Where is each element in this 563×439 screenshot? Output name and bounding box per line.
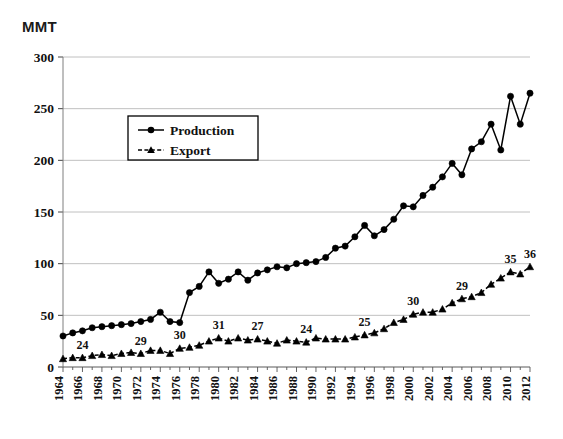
data-point-marker — [99, 324, 105, 330]
data-point-marker — [216, 280, 222, 286]
x-axis-tick-label: 1992 — [324, 376, 338, 401]
data-point-marker — [196, 283, 202, 289]
data-point-marker — [79, 328, 85, 334]
x-axis-tick-label: 1968 — [91, 376, 105, 401]
data-point-marker — [274, 264, 280, 270]
data-point-marker — [468, 293, 475, 300]
data-point-marker — [109, 323, 115, 329]
chart-legend: ProductionExport — [128, 116, 258, 160]
data-point-marker — [497, 275, 504, 282]
data-point-marker — [371, 233, 377, 239]
data-point-marker — [419, 309, 426, 316]
data-point-marker — [332, 245, 338, 251]
y-axis-tick-label: 0 — [47, 360, 54, 375]
gridlines-group — [63, 57, 530, 315]
x-axis-tick-label: 1984 — [247, 375, 261, 401]
data-label: 36 — [524, 247, 536, 261]
data-point-marker — [361, 331, 368, 338]
data-point-marker — [430, 184, 436, 190]
x-axis-tick-label: 1994 — [344, 375, 358, 401]
x-axis-tick-label: 1982 — [227, 376, 241, 401]
y-axis-tick-label: 50 — [41, 308, 55, 323]
data-point-marker — [118, 322, 124, 328]
data-point-marker — [293, 261, 299, 267]
data-point-marker — [147, 316, 153, 322]
data-point-marker — [186, 290, 192, 296]
data-point-marker — [400, 316, 407, 323]
x-axis-tick-label: 1980 — [208, 376, 222, 401]
data-point-marker — [60, 333, 66, 339]
data-label: 25 — [359, 315, 371, 329]
data-label: 27 — [252, 319, 264, 333]
data-point-marker — [342, 243, 348, 249]
y-axis-tick-label: 200 — [34, 153, 55, 168]
data-label: 24 — [300, 322, 312, 336]
data-point-marker — [206, 269, 212, 275]
data-point-marker — [420, 192, 426, 198]
data-point-marker — [469, 146, 475, 152]
x-axis-tick-label: 2008 — [480, 376, 494, 401]
data-point-marker — [527, 90, 533, 96]
data-point-marker — [323, 254, 329, 260]
data-point-marker — [313, 259, 319, 265]
y-axis-unit-label: MMT — [22, 18, 57, 35]
data-point-marker — [264, 267, 270, 273]
data-point-marker — [449, 160, 455, 166]
data-point-marker — [439, 306, 446, 313]
x-axis-tick-label: 1972 — [130, 376, 144, 401]
data-point-marker — [177, 319, 183, 325]
x-axis-tick-label: 1976 — [169, 376, 183, 401]
data-point-marker — [254, 336, 261, 343]
data-point-marker — [526, 263, 533, 270]
data-point-marker — [225, 276, 231, 282]
data-point-marker — [137, 350, 144, 357]
y-axis-ticks-group: 050100150200250300 — [34, 50, 63, 375]
chart-container: MMT 050100150200250300 19641966196819701… — [0, 0, 563, 439]
line-chart-plot: 050100150200250300 196419661968197019721… — [0, 0, 563, 439]
data-point-marker — [390, 319, 397, 326]
data-point-marker — [138, 318, 144, 324]
data-point-marker — [517, 270, 524, 277]
data-point-marker — [128, 321, 134, 327]
data-point-marker — [507, 93, 513, 99]
y-axis-tick-label: 100 — [34, 256, 55, 271]
x-axis-tick-label: 1978 — [188, 376, 202, 401]
data-point-marker — [498, 147, 504, 153]
data-point-marker — [439, 174, 445, 180]
x-axis-tick-label: 2000 — [402, 376, 416, 401]
x-axis-tick-label: 2012 — [519, 376, 533, 401]
data-point-marker — [488, 121, 494, 127]
x-axis-tick-label: 1998 — [383, 376, 397, 401]
legend-marker-circle-icon — [148, 127, 155, 134]
data-point-marker — [215, 334, 222, 341]
data-label: 35 — [505, 252, 517, 266]
data-label: 30 — [407, 294, 419, 308]
data-point-marker — [70, 330, 76, 336]
y-axis-tick-label: 250 — [34, 101, 55, 116]
x-axis-labels-group: 1964196619681970197219741976197819801982… — [52, 375, 533, 401]
data-point-marker — [517, 121, 523, 127]
data-point-marker — [89, 325, 95, 331]
x-axis-tick-label: 1974 — [149, 375, 163, 401]
data-point-marker — [235, 334, 242, 341]
data-label: 29 — [456, 279, 468, 293]
data-point-marker — [245, 277, 251, 283]
data-point-marker — [157, 347, 164, 354]
data-label: 24 — [76, 338, 88, 352]
x-axis-tick-label: 2010 — [500, 376, 514, 401]
data-point-marker — [322, 336, 329, 343]
x-axis-tick-label: 1996 — [363, 376, 377, 401]
data-point-marker — [303, 260, 309, 266]
data-point-marker — [157, 309, 163, 315]
data-point-marker — [400, 203, 406, 209]
data-point-marker — [235, 269, 241, 275]
data-label: 30 — [174, 328, 186, 342]
data-point-marker — [459, 172, 465, 178]
data-point-marker — [342, 336, 349, 343]
data-point-marker — [478, 139, 484, 145]
data-point-marker — [186, 344, 193, 351]
x-axis-tick-label: 1990 — [305, 376, 319, 401]
x-axis-tick-label: 1970 — [110, 376, 124, 401]
data-point-marker — [205, 338, 212, 345]
data-point-marker — [487, 281, 494, 288]
